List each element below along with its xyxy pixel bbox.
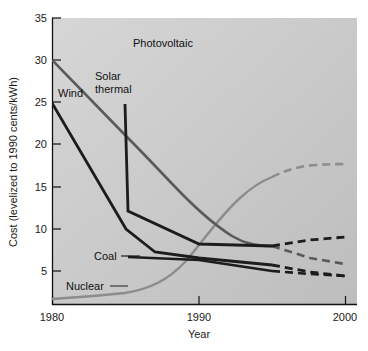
series-label-photovoltaic: Photovoltaic (133, 37, 193, 49)
y-tick-label-10: 10 (35, 223, 47, 235)
x-axis-title: Year (188, 328, 211, 340)
x-tick-label-2000: 2000 (333, 311, 357, 323)
series-label-nuclear: Nuclear (66, 280, 104, 292)
series-label-coal: Coal (94, 250, 117, 262)
series-label-solar-thermal-line2: thermal (95, 83, 132, 95)
y-tick-label-25: 25 (35, 96, 47, 108)
y-tick-label-5: 5 (41, 265, 47, 277)
energy-cost-line-chart: 35 30 25 20 15 10 5 1980 1990 2000 Year … (0, 0, 368, 351)
y-tick-label-20: 20 (35, 138, 47, 150)
y-tick-label-30: 30 (35, 54, 47, 66)
series-label-wind: Wind (58, 87, 83, 99)
y-tick-label-15: 15 (35, 181, 47, 193)
series-label-solar-thermal-line1: Solar (95, 70, 121, 82)
x-tick-label-1990: 1990 (187, 311, 211, 323)
chart-figure: 35 30 25 20 15 10 5 1980 1990 2000 Year … (0, 0, 368, 351)
x-tick-label-1980: 1980 (40, 311, 64, 323)
y-axis-title: Cost (levelized to 1990 cents/kWh) (7, 77, 19, 247)
y-tick-label-35: 35 (35, 12, 47, 24)
